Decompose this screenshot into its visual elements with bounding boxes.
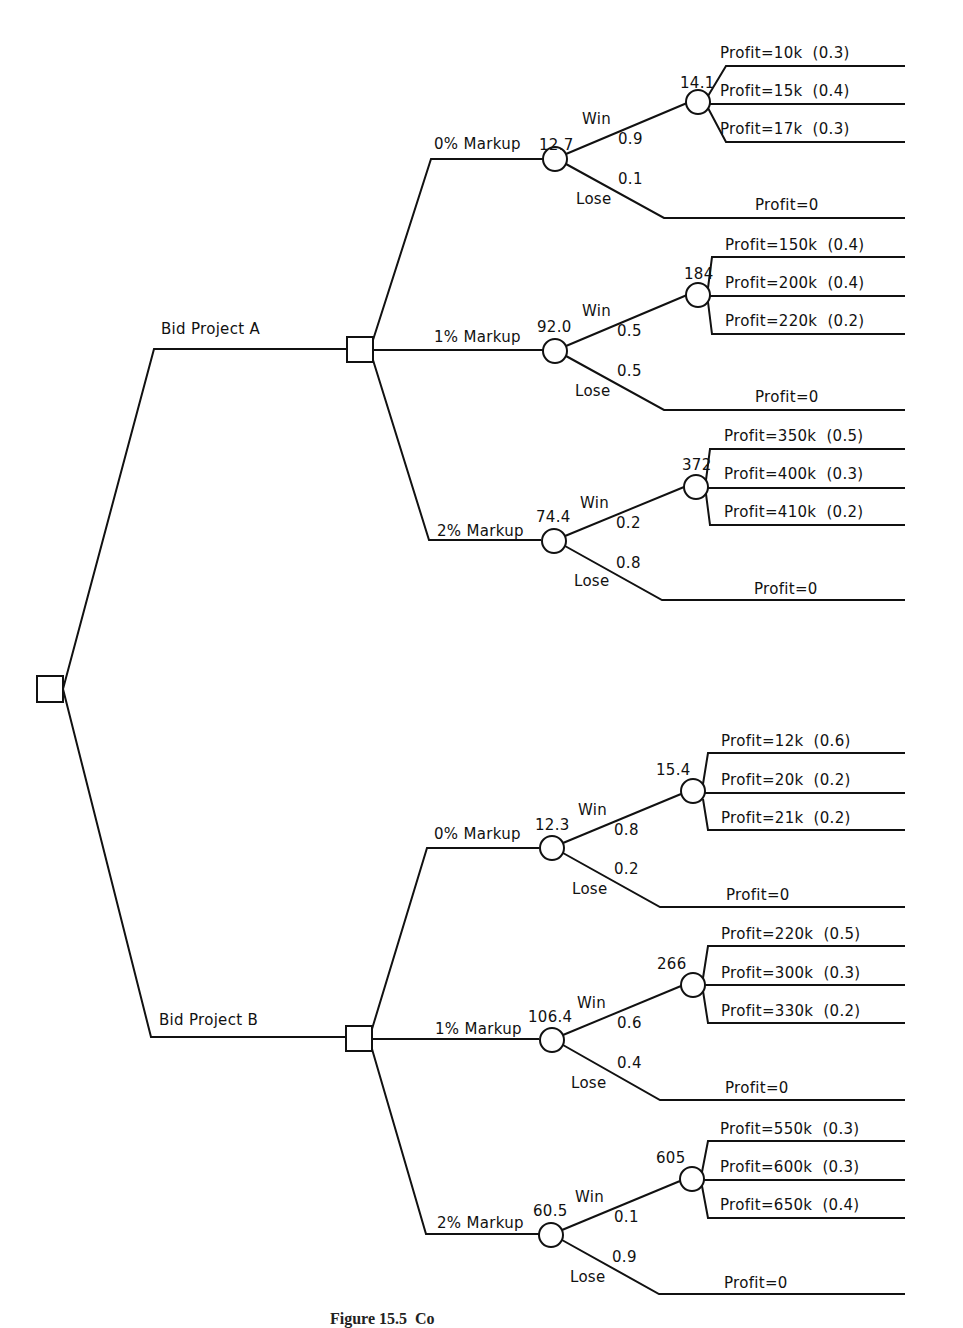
- a-branch-0pct: [373, 159, 543, 340]
- b-1pct-win-ev: 266: [657, 957, 687, 972]
- b-2pct-markup-label: 2% Markup: [437, 1216, 524, 1231]
- b-0pct-lose-label: Lose: [572, 882, 608, 897]
- a-1pct-win-chance-node: [686, 283, 710, 307]
- b-2pct-lose-outcome: Profit=0: [724, 1276, 788, 1291]
- project-b-label: Bid Project B: [159, 1013, 258, 1028]
- b-2pct-ev: 60.5: [533, 1204, 568, 1219]
- b-1pct-lose-outcome: Profit=0: [725, 1081, 789, 1096]
- b-0pct-chance-node: [540, 836, 564, 860]
- root-decision-node: [37, 676, 63, 702]
- b-2pct-outcome-1-label: Profit=550k (0.3): [720, 1122, 860, 1137]
- branch-bid-project-a: [63, 349, 347, 689]
- b-2pct-win-label: Win: [575, 1190, 604, 1205]
- a-0pct-lose-branch: [566, 164, 905, 218]
- a-2pct-win-label: Win: [580, 496, 609, 511]
- a-0pct-win-ev: 14.1: [680, 76, 715, 91]
- a-0pct-lose-prob: 0.1: [618, 172, 643, 187]
- a-0pct-outcome-1-label: Profit=10k (0.3): [720, 46, 850, 61]
- a-0pct-lose-outcome: Profit=0: [755, 198, 819, 213]
- b-0pct-win-ev: 15.4: [656, 763, 691, 778]
- project-b-decision-node: [346, 1026, 372, 1051]
- a-1pct-lose-outcome: Profit=0: [755, 390, 819, 405]
- project-a-decision-node: [347, 337, 373, 362]
- a-2pct-chance-node: [542, 529, 566, 553]
- b-2pct-win-ev: 605: [656, 1151, 686, 1166]
- a-1pct-lose-label: Lose: [575, 384, 611, 399]
- a-0pct-outcome-2-label: Profit=15k (0.4): [720, 84, 850, 99]
- a-2pct-outcome-2-label: Profit=400k (0.3): [724, 467, 864, 482]
- a-2pct-ev: 74.4: [536, 510, 571, 525]
- a-2pct-win-ev: 372: [682, 458, 712, 473]
- b-1pct-ev: 106.4: [528, 1010, 572, 1025]
- a-0pct-ev: 12.7: [539, 138, 574, 153]
- a-1pct-markup-label: 1% Markup: [434, 330, 521, 345]
- a-0pct-lose-label: Lose: [576, 192, 612, 207]
- b-0pct-outcome-1-label: Profit=12k (0.6): [721, 734, 851, 749]
- b-0pct-outcome-2-label: Profit=20k (0.2): [721, 773, 851, 788]
- a-1pct-win-label: Win: [582, 304, 611, 319]
- b-0pct-lose-outcome: Profit=0: [726, 888, 790, 903]
- b-1pct-outcome-2-label: Profit=300k (0.3): [721, 966, 861, 981]
- b-2pct-outcome-3-label: Profit=650k (0.4): [720, 1198, 860, 1213]
- b-1pct-outcome-1-label: Profit=220k (0.5): [721, 927, 861, 942]
- b-2pct-chance-node: [539, 1223, 563, 1247]
- b-2pct-lose-prob: 0.9: [612, 1250, 637, 1265]
- b-0pct-outcome-3-label: Profit=21k (0.2): [721, 811, 851, 826]
- b-0pct-win-prob: 0.8: [614, 823, 639, 838]
- b-2pct-lose-label: Lose: [570, 1270, 606, 1285]
- a-1pct-outcome-3-label: Profit=220k (0.2): [725, 314, 865, 329]
- a-2pct-win-prob: 0.2: [616, 516, 641, 531]
- a-2pct-outcome-3-label: Profit=410k (0.2): [724, 505, 864, 520]
- a-2pct-lose-label: Lose: [574, 574, 610, 589]
- a-branch-2pct: [373, 360, 541, 540]
- a-1pct-win-prob: 0.5: [617, 324, 642, 339]
- b-1pct-markup-label: 1% Markup: [435, 1022, 522, 1037]
- b-0pct-ev: 12.3: [535, 818, 570, 833]
- b-1pct-chance-node: [540, 1028, 564, 1052]
- b-2pct-outcome-2-label: Profit=600k (0.3): [720, 1160, 860, 1175]
- b-branch-2pct: [372, 1049, 539, 1234]
- a-2pct-markup-label: 2% Markup: [437, 524, 524, 539]
- a-1pct-chance-node: [543, 339, 567, 363]
- a-0pct-markup-label: 0% Markup: [434, 137, 521, 152]
- a-0pct-win-label: Win: [582, 112, 611, 127]
- b-1pct-lose-prob: 0.4: [617, 1056, 642, 1071]
- a-0pct-outcome-3-label: Profit=17k (0.3): [720, 122, 850, 137]
- b-1pct-win-label: Win: [577, 996, 606, 1011]
- b-2pct-win-prob: 0.1: [614, 1210, 639, 1225]
- b-branch-0pct: [372, 848, 539, 1029]
- a-2pct-win-chance-node: [684, 475, 708, 499]
- project-a-label: Bid Project A: [161, 322, 260, 337]
- a-1pct-lose-prob: 0.5: [617, 364, 642, 379]
- b-1pct-win-prob: 0.6: [617, 1016, 642, 1031]
- a-2pct-outcome-1-label: Profit=350k (0.5): [724, 429, 864, 444]
- a-1pct-outcome-2-label: Profit=200k (0.4): [725, 276, 865, 291]
- b-0pct-win-label: Win: [578, 803, 607, 818]
- a-0pct-win-chance-node: [686, 90, 710, 114]
- b-1pct-outcome-3-label: Profit=330k (0.2): [721, 1004, 861, 1019]
- a-2pct-lose-prob: 0.8: [616, 556, 641, 571]
- branch-bid-project-b: [63, 689, 346, 1037]
- b-0pct-win-chance-node: [681, 779, 705, 803]
- a-2pct-lose-outcome: Profit=0: [754, 582, 818, 597]
- b-1pct-win-chance-node: [681, 973, 705, 997]
- a-1pct-win-ev: 184: [684, 267, 714, 282]
- b-2pct-win-chance-node: [680, 1167, 704, 1191]
- figure-caption: Figure 15.5 Co: [330, 1310, 435, 1328]
- a-1pct-ev: 92.0: [537, 320, 572, 335]
- a-1pct-outcome-1-label: Profit=150k (0.4): [725, 238, 865, 253]
- b-0pct-markup-label: 0% Markup: [434, 827, 521, 842]
- a-0pct-win-prob: 0.9: [618, 132, 643, 147]
- b-1pct-lose-label: Lose: [571, 1076, 607, 1091]
- b-0pct-lose-prob: 0.2: [614, 862, 639, 877]
